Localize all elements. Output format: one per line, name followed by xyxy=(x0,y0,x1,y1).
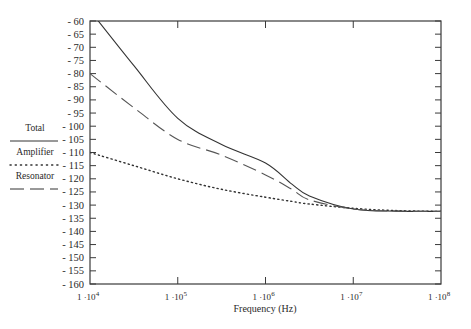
x-tick-label: 1 ·106 xyxy=(252,290,275,302)
plot-border xyxy=(90,21,441,284)
y-tick-label: - 135 xyxy=(62,213,84,224)
x-tick-label: 1 ·105 xyxy=(165,290,188,302)
y-tick-label: - 150 xyxy=(62,252,84,263)
noise-chart: - 60- 65- 70- 75- 80- 85- 90- 95- 100- 1… xyxy=(0,0,471,329)
y-tick-label: - 160 xyxy=(62,279,84,290)
y-tick-label: - 95 xyxy=(67,108,84,119)
y-tick-label: - 100 xyxy=(62,121,84,132)
y-tick-label: - 125 xyxy=(62,186,84,197)
series-amplifier xyxy=(90,153,441,212)
plot-series xyxy=(90,11,441,212)
y-tick-label: - 65 xyxy=(67,29,84,40)
y-tick-label: - 120 xyxy=(62,173,84,184)
y-tick-label: - 80 xyxy=(67,68,84,79)
y-tick-label: - 85 xyxy=(67,81,84,92)
y-tick-label: - 60 xyxy=(67,16,84,27)
legend: TotalAmplifierResonator xyxy=(10,123,58,189)
series-total xyxy=(90,11,441,212)
series-resonator xyxy=(90,74,441,212)
legend-label-amplifier: Amplifier xyxy=(16,147,54,157)
x-tick-label: 1 ·104 xyxy=(77,290,100,302)
y-tick-label: - 75 xyxy=(67,55,84,66)
y-tick-label: - 155 xyxy=(62,265,84,276)
y-tick-label: - 145 xyxy=(62,239,84,250)
y-tick-label: - 90 xyxy=(67,94,84,105)
y-tick-label: - 140 xyxy=(62,226,84,237)
legend-label-total: Total xyxy=(25,123,45,133)
legend-label-resonator: Resonator xyxy=(16,171,55,181)
x-tick-label: 1 ·107 xyxy=(340,290,363,302)
x-tick-label: 1 ·108 xyxy=(428,290,451,302)
y-tick-label: - 115 xyxy=(63,160,84,171)
y-axis: - 60- 65- 70- 75- 80- 85- 90- 95- 100- 1… xyxy=(62,16,441,290)
x-axis-label: Frequency (Hz) xyxy=(233,303,296,315)
y-tick-label: - 130 xyxy=(62,200,84,211)
plot-frame xyxy=(90,21,441,284)
y-tick-label: - 70 xyxy=(67,42,84,53)
y-tick-label: - 105 xyxy=(62,134,84,145)
y-tick-label: - 110 xyxy=(63,147,84,158)
